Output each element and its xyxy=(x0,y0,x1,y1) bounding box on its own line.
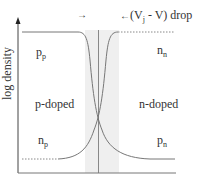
depletion-region-band xyxy=(85,30,119,173)
label-p-p: pp xyxy=(36,46,46,60)
pn-junction-diagram xyxy=(0,0,201,182)
y-axis-label: log density xyxy=(0,47,15,100)
region-label-n-doped: n-doped xyxy=(139,98,178,110)
label-n-p: np xyxy=(38,134,48,148)
depletion-right-arrow-icon: ← xyxy=(120,10,130,21)
region-label-p-doped: p-doped xyxy=(35,98,74,110)
depletion-left-arrow-icon: → xyxy=(77,9,87,21)
voltage-drop-annotation: ←(Vj - V) drop xyxy=(120,9,192,23)
label-p-n: pn xyxy=(157,134,167,148)
y-axis-arrow-icon xyxy=(16,17,21,24)
label-n-n: nn xyxy=(157,44,167,58)
